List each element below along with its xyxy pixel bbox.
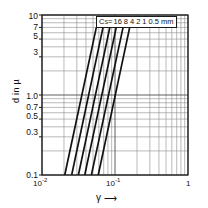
y-tick-label-10: 10 — [2, 12, 38, 21]
chart-figure: d in µ 10 7 5 3 1.0 0.7 0.5 0.3 0.1 10-2… — [0, 0, 208, 208]
x-tick-label-1e-2: 10-2 — [33, 180, 47, 188]
x-tick-mantissa-1: 10 — [33, 179, 42, 188]
x-axis-symbol: γ — [96, 192, 101, 203]
legend-box: CS =1684210.5mm — [96, 16, 177, 28]
x-tick-label-1: 1 — [186, 180, 190, 188]
x-tick-mantissa-2: 10 — [106, 179, 115, 188]
y-tick-label-3: 3 — [2, 48, 38, 57]
y-tick-label-0p3: 0.3 — [2, 128, 38, 137]
x-tick-exponent-1: -2 — [42, 177, 47, 183]
legend-value-0p5: 0.5 — [148, 17, 160, 27]
legend-value-16: 16 — [112, 17, 122, 27]
x-axis-title: γ ⟶ — [96, 192, 116, 203]
legend-unit: mm — [160, 17, 175, 27]
x-axis-arrow-icon: ⟶ — [104, 193, 116, 203]
x-tick-exponent-2: -1 — [115, 177, 120, 183]
y-tick-label-5: 5 — [2, 32, 38, 41]
y-tick-label-1p0: 1.0 — [2, 92, 38, 101]
x-tick-label-1e-1: 10-1 — [106, 180, 120, 188]
y-tick-label-0p5: 0.5 — [2, 112, 38, 121]
